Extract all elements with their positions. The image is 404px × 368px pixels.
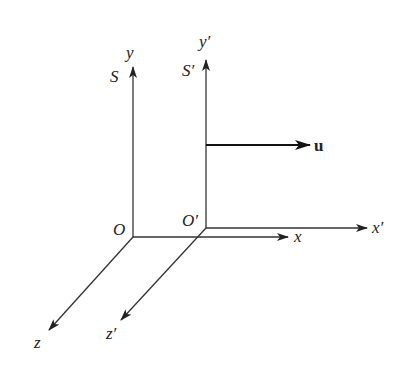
y-prime-axis-label: y′ — [197, 32, 211, 51]
reference-frames-diagram: S y O x z S′ y′ O′ x′ z′ u — [0, 0, 404, 368]
z-axis-label: z — [33, 333, 41, 352]
frame-s-prime-label: S′ — [182, 61, 195, 80]
z-prime-axis-label: z′ — [105, 324, 117, 343]
frame-s-prime: S′ y′ O′ x′ z′ — [105, 32, 384, 343]
z-axis — [49, 237, 133, 330]
velocity-vector: u — [206, 136, 323, 155]
origin-o-label: O — [113, 220, 125, 239]
frame-s-label: S — [110, 67, 119, 86]
origin-o-prime-label: O′ — [182, 211, 198, 230]
x-axis-label: x — [293, 227, 302, 246]
x-prime-axis-label: x′ — [371, 218, 384, 237]
y-axis-label: y — [124, 43, 134, 62]
z-prime-axis — [121, 228, 206, 320]
velocity-label: u — [314, 136, 323, 155]
frame-s: S y O x z — [33, 43, 302, 352]
